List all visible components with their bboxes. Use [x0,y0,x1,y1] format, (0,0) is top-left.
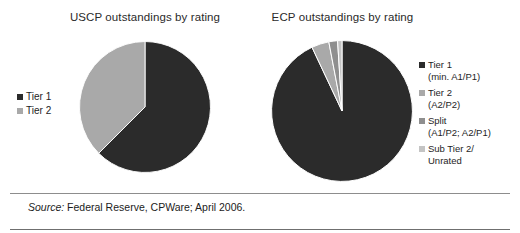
legend-swatch-icon [419,146,425,152]
legend-swatch-icon [17,94,23,100]
legend-item-line2: (min. A1/P1) [428,71,480,82]
uscp-pie-chart [79,41,211,173]
legend-item: Tier 1(min. A1/P1) [419,59,491,82]
legend-item-line1: Tier 2 [428,87,452,98]
figure-panel: USCP outstandings by rating ECP outstand… [0,0,520,233]
legend-item: Tier 1 [17,91,51,103]
source-text: Federal Reserve, CPWare; April 2006. [64,201,245,213]
legend-swatch-icon [17,108,23,114]
ecp-pie-chart [271,40,413,182]
legend-item-line2: (A1/P2; A2/P1) [428,127,491,138]
uscp-pie-svg [79,41,211,173]
legend-item: Sub Tier 2/Unrated [419,143,491,166]
source-note: Source: Federal Reserve, CPWare; April 2… [28,201,245,213]
footer-divider-top [10,193,510,194]
legend-item-label: Tier 1 [26,91,51,103]
legend-swatch-icon [419,90,425,96]
ecp-pie-slices [272,41,413,182]
legend-item-line2: (A2/P2) [428,99,460,110]
legend-item-label: Sub Tier 2/Unrated [428,143,474,166]
uscp-pie-slices [80,42,211,173]
legend-swatch-icon [419,118,425,124]
legend-item-line1: Split [428,115,446,126]
legend-item-label: Split(A1/P2; A2/P1) [428,115,491,138]
legend-item: Tier 2 [17,105,51,117]
ecp-chart-title: ECP outstandings by rating [240,11,445,23]
legend-item: Split(A1/P2; A2/P1) [419,115,491,138]
source-label: Source: [28,201,64,213]
footer-divider-bottom [10,229,510,230]
ecp-pie-svg [271,40,413,182]
legend-item-line2: Unrated [428,155,462,166]
legend-item-label: Tier 2 [26,105,51,117]
legend-item-line1: Tier 1 [428,59,452,70]
legend-item: Tier 2(A2/P2) [419,87,491,110]
legend-item-label: Tier 2(A2/P2) [428,87,460,110]
legend-item-label: Tier 1(min. A1/P1) [428,59,480,82]
uscp-chart-title: USCP outstandings by rating [40,11,250,23]
uscp-legend: Tier 1 Tier 2 [17,91,51,118]
legend-swatch-icon [419,62,425,68]
ecp-legend: Tier 1(min. A1/P1) Tier 2(A2/P2) Split(A… [419,59,491,171]
legend-item-line1: Sub Tier 2/ [428,143,474,154]
